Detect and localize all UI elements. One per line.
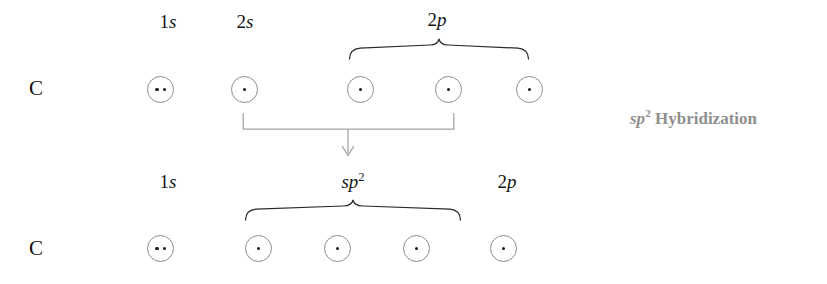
orbital-label-1s-top-letter: s — [169, 11, 176, 32]
electron-dot — [163, 88, 166, 91]
electron-dot — [415, 247, 418, 250]
orbital-2p-bottom — [490, 235, 517, 262]
orbital-label-1s-top: 1s — [140, 12, 196, 31]
electron-dot — [155, 88, 158, 91]
electron-dot — [155, 247, 158, 250]
electron-dot — [359, 88, 362, 91]
electron-dot — [243, 88, 246, 91]
orbital-label-sp2-bottom-letter: sp — [341, 171, 358, 192]
electron-dot — [257, 247, 260, 250]
orbital-hybridization-diagram: C 1s 2s 2p C — [0, 0, 827, 284]
orbital-1s-bottom — [147, 235, 174, 262]
orbital-label-2p-bottom: 2p — [479, 172, 535, 191]
caption-superscript: 2 — [645, 107, 651, 119]
orbital-label-2s-top-letter: s — [246, 11, 253, 32]
element-symbol-hybridized-state: C — [29, 238, 43, 259]
orbital-label-sp2-bottom-sup: 2 — [358, 170, 364, 184]
orbital-label-1s-bottom-num: 1 — [160, 171, 170, 192]
orbital-sp2-c — [403, 235, 430, 262]
orbital-label-1s-top-num: 1 — [160, 11, 170, 32]
electron-dot — [163, 247, 166, 250]
orbital-label-sp2-bottom: sp2 — [325, 172, 381, 191]
orbital-2pz-top — [516, 76, 543, 103]
orbital-label-2s-top: 2s — [217, 12, 273, 31]
caption-label-text: Hybridization — [655, 109, 757, 128]
electron-dot — [447, 88, 450, 91]
brace-2p-top — [348, 38, 530, 60]
orbital-label-2p-top: 2p — [409, 10, 465, 29]
hybridization-caption: sp2 Hybridization — [630, 110, 757, 127]
orbital-label-1s-bottom-letter: s — [169, 171, 176, 192]
orbital-label-2p-bottom-num: 2 — [498, 171, 508, 192]
orbital-label-1s-bottom: 1s — [140, 172, 196, 191]
electron-dot — [336, 247, 339, 250]
electron-dot — [502, 247, 505, 250]
orbital-label-2p-bottom-letter: p — [507, 171, 517, 192]
orbital-2py-top — [435, 76, 462, 103]
orbital-2px-top — [347, 76, 374, 103]
orbital-label-2s-top-num: 2 — [237, 11, 247, 32]
electron-dot — [528, 88, 531, 91]
orbital-1s-top — [147, 76, 174, 103]
orbital-sp2-a — [245, 235, 272, 262]
orbital-2s-top — [231, 76, 258, 103]
hybridization-transition-arrow — [242, 112, 467, 160]
element-symbol-ground-state: C — [29, 78, 43, 99]
orbital-label-2p-top-letter: p — [437, 9, 447, 30]
orbital-sp2-b — [324, 235, 351, 262]
orbital-label-2p-top-num: 2 — [428, 9, 438, 30]
brace-sp2-bottom — [244, 199, 464, 221]
caption-sp-text: sp — [630, 109, 645, 128]
